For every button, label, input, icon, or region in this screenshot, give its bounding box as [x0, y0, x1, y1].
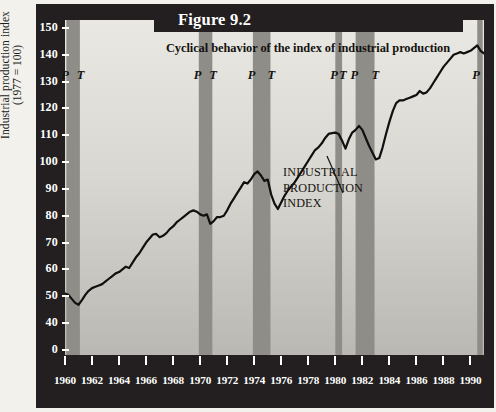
y-tick-label: 100 [22, 154, 58, 169]
y-tick-mark [62, 242, 69, 244]
trough-marker: T [209, 68, 217, 83]
peak-marker: P [61, 68, 69, 83]
chart-title: Cyclical behavior of the index of indust… [128, 41, 488, 56]
y-tick-mark [62, 107, 69, 109]
series-annotation-line1: INDUSTRIAL [283, 165, 363, 181]
y-tick-label: 120 [22, 100, 58, 115]
y-tick-mark [62, 322, 69, 324]
y-tick-label: 130 [22, 74, 58, 89]
x-tick-mark [388, 356, 390, 365]
trough-marker: T [339, 68, 347, 83]
industrial-production-line [65, 45, 484, 304]
x-tick-mark [442, 356, 444, 365]
series-annotation-line3: INDEX [283, 196, 363, 212]
x-tick-mark [199, 356, 201, 365]
x-tick-mark [145, 356, 147, 365]
x-tick-mark [469, 356, 471, 365]
x-tick-mark [64, 356, 66, 365]
y-tick-label: 40 [22, 315, 58, 330]
trough-marker: T [77, 68, 85, 83]
figure-banner: Figure 9.2 [154, 7, 463, 32]
trough-marker: T [267, 68, 275, 83]
series-annotation: INDUSTRIAL PRODUCTION INDEX [283, 165, 363, 212]
y-tick-label: 60 [22, 261, 58, 276]
x-tick-mark [118, 356, 120, 365]
x-tick-mark [415, 356, 417, 365]
x-tick-mark [361, 356, 363, 365]
y-tick-mark [62, 349, 69, 351]
x-tick-mark [280, 356, 282, 365]
y-tick-label: 50 [22, 288, 58, 303]
y-tick-label: 90 [22, 181, 58, 196]
y-tick-label: 110 [22, 127, 58, 142]
x-tick-mark [307, 356, 309, 365]
x-tick-mark [172, 356, 174, 365]
series-annotation-line2: PRODUCTION [283, 181, 363, 197]
peak-marker: P [330, 68, 338, 83]
y-tick-label: 140 [22, 47, 58, 62]
y-tick-label: 0 [22, 342, 58, 357]
peak-marker: P [194, 68, 202, 83]
y-tick-mark [62, 188, 69, 190]
y-axis-title-line1: Industrial production index [0, 0, 11, 155]
x-tick-label: 1990 [450, 374, 490, 386]
y-tick-mark [62, 161, 69, 163]
x-tick-mark [334, 356, 336, 365]
y-tick-label: 80 [22, 208, 58, 223]
y-tick-mark [62, 215, 69, 217]
y-tick-label: 70 [22, 235, 58, 250]
y-tick-mark [62, 295, 69, 297]
y-tick-mark [62, 268, 69, 270]
peak-marker: P [472, 68, 480, 83]
x-tick-mark [226, 356, 228, 365]
y-tick-mark [62, 134, 69, 136]
y-tick-mark [62, 54, 69, 56]
trough-marker: T [372, 68, 380, 83]
y-tick-mark [62, 27, 69, 29]
y-tick-label: 150 [22, 20, 58, 35]
x-tick-mark [253, 356, 255, 365]
figure-banner-label: Figure 9.2 [178, 10, 251, 30]
x-tick-mark [91, 356, 93, 365]
peak-marker: P [248, 68, 256, 83]
figure-root: Industrial production index (1977 = 100)… [0, 0, 496, 412]
peak-marker: P [351, 68, 359, 83]
